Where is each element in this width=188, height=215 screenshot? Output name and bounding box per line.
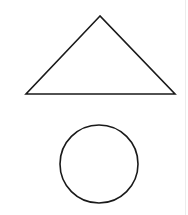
shapes-drawing <box>0 0 188 215</box>
diagram-canvas <box>0 0 188 215</box>
circle-shape <box>60 125 138 203</box>
page-edge-line <box>185 0 186 215</box>
triangle-shape <box>26 16 175 94</box>
